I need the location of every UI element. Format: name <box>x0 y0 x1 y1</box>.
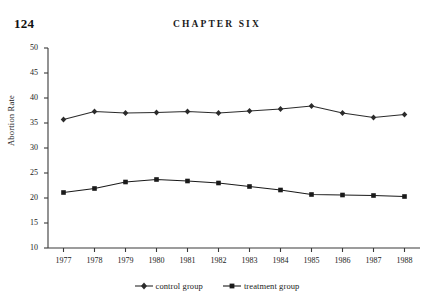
data-point-marker <box>216 181 221 186</box>
running-head: CHAPTER SIX <box>0 19 434 29</box>
data-point-marker <box>185 179 190 184</box>
data-point-marker <box>247 108 253 114</box>
data-point-marker <box>185 108 191 114</box>
data-point-marker <box>278 106 284 112</box>
series-line-1 <box>64 180 405 197</box>
chart-legend: control group treatment group <box>0 281 434 291</box>
data-point-marker <box>123 110 129 116</box>
y-tick-label: 40 <box>12 93 38 102</box>
data-point-marker <box>154 109 160 115</box>
y-tick-label: 50 <box>12 43 38 52</box>
data-point-marker <box>61 116 67 122</box>
data-point-marker <box>402 111 408 117</box>
data-point-marker <box>154 177 159 182</box>
data-point-marker <box>309 192 314 197</box>
data-point-marker <box>340 193 345 198</box>
y-tick-label: 25 <box>12 168 38 177</box>
y-tick-label: 45 <box>12 68 38 77</box>
x-tick-label: 1988 <box>385 256 425 265</box>
data-point-marker <box>123 180 128 185</box>
legend-marker-square-icon <box>223 281 241 291</box>
data-point-marker <box>216 110 222 116</box>
series-line-0 <box>64 106 405 120</box>
figure-line-chart: Abortion Rate 504540353025201510 1977197… <box>0 38 434 305</box>
data-point-marker <box>309 103 315 109</box>
data-point-marker <box>340 110 346 116</box>
y-tick-label: 20 <box>12 193 38 202</box>
data-point-marker <box>371 114 377 120</box>
data-point-marker <box>61 190 66 195</box>
y-tick-label: 15 <box>12 218 38 227</box>
legend-label-control-group: control group <box>156 281 203 291</box>
data-point-marker <box>247 184 252 189</box>
y-tick-label: 35 <box>12 118 38 127</box>
data-point-marker <box>278 188 283 193</box>
data-point-marker <box>92 108 98 114</box>
legend-item-treatment-group: treatment group <box>223 281 300 291</box>
y-tick-label: 30 <box>12 143 38 152</box>
data-point-marker <box>402 194 407 199</box>
data-point-marker <box>371 193 376 198</box>
legend-item-control-group: control group <box>135 281 203 291</box>
book-page: 124 CHAPTER SIX Abortion Rate 5045403530… <box>0 0 434 305</box>
y-tick-label: 10 <box>12 243 38 252</box>
legend-marker-diamond-icon <box>135 281 153 291</box>
data-point-marker <box>92 186 97 191</box>
legend-label-treatment-group: treatment group <box>244 281 300 291</box>
